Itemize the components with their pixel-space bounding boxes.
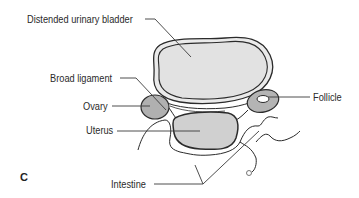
follicle-shape xyxy=(257,96,269,103)
label-uterus: Uterus xyxy=(86,125,113,136)
anatomy-diagram: Distended urinary bladder Broad ligament… xyxy=(0,0,359,198)
panel-letter: C xyxy=(20,172,28,183)
label-ovary: Ovary xyxy=(83,101,108,112)
pelvic-anatomy-illustration xyxy=(0,0,359,198)
label-intestine: Intestine xyxy=(111,179,146,190)
label-distended-urinary-bladder: Distended urinary bladder xyxy=(27,14,133,25)
label-broad-ligament: Broad ligament xyxy=(50,73,112,84)
label-follicle: Follicle xyxy=(313,92,342,103)
